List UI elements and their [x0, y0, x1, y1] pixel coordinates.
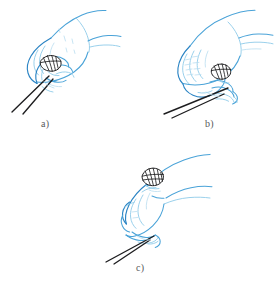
- panel-c-illustration: [92, 152, 218, 264]
- held-object-a: [40, 55, 61, 71]
- held-object-b: [211, 64, 231, 79]
- held-object-c: [142, 168, 163, 186]
- panel-a-illustration: [4, 8, 124, 120]
- panel-b-caption: b): [205, 118, 214, 129]
- panel-a-caption: a): [41, 118, 49, 129]
- panel-c-caption: c): [136, 262, 144, 273]
- panel-b-illustration: [150, 8, 276, 120]
- figure-root: a): [0, 0, 278, 288]
